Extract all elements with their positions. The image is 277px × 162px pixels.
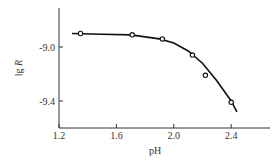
data-points — [78, 31, 233, 104]
y-tick-label: -9.4 — [39, 96, 55, 107]
x-tick-label: 1.6 — [110, 130, 123, 141]
axes — [59, 8, 270, 128]
data-point — [190, 53, 194, 57]
data-point — [203, 73, 207, 77]
x-axis-label: pH — [149, 145, 161, 156]
chart: 1.21.62.02.4 -9.0-9.4 pH lg R — [0, 0, 277, 162]
y-tick-label: -9.0 — [39, 42, 55, 53]
data-point — [78, 31, 82, 35]
x-ticks: 1.21.62.02.4 — [53, 124, 238, 141]
fitted-curve — [72, 34, 237, 112]
x-tick-label: 1.2 — [53, 130, 66, 141]
data-point — [130, 33, 134, 37]
x-tick-label: 2.0 — [168, 130, 181, 141]
data-point — [160, 37, 164, 41]
data-point — [229, 100, 233, 104]
y-axis-label: lg R — [13, 60, 24, 76]
x-tick-label: 2.4 — [225, 130, 238, 141]
